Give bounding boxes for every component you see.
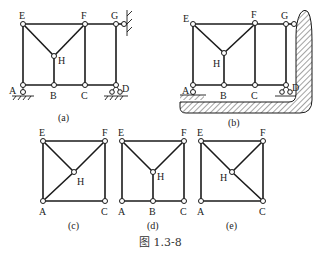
label-f: F — [181, 127, 187, 138]
label-a: A — [118, 206, 126, 217]
panel-c: E F H A C (c) — [39, 127, 108, 232]
members — [193, 24, 294, 85]
label-a: A — [197, 206, 205, 217]
label-c: C — [180, 206, 187, 217]
panel-label-e: (e) — [226, 220, 237, 232]
label-e: E — [19, 10, 25, 21]
label-d: D — [292, 82, 299, 93]
label-e: E — [118, 127, 124, 138]
nodes — [191, 21, 289, 88]
label-c: C — [81, 90, 88, 101]
pin-support-g — [292, 22, 297, 27]
label-e: E — [197, 127, 203, 138]
figure-caption: 图 1.3-8 — [139, 236, 182, 249]
panel-label-a: (a) — [58, 112, 69, 124]
figure-canvas: E F G H A B C D (a) — [0, 0, 320, 253]
label-f: F — [102, 127, 108, 138]
label-b: B — [220, 90, 227, 101]
panel-b: E F G H A B C D (b) — [180, 9, 312, 129]
label-a: A — [182, 85, 190, 96]
label-g: G — [281, 10, 288, 21]
panel-e: E F H A C (e) — [197, 127, 266, 232]
label-b: B — [149, 206, 156, 217]
label-d: D — [122, 83, 129, 94]
label-h: H — [213, 58, 220, 69]
label-h: H — [77, 176, 84, 187]
label-h: H — [157, 171, 164, 182]
pin-support-g — [122, 10, 133, 36]
label-f: F — [260, 127, 266, 138]
label-b: B — [50, 90, 57, 101]
label-f: F — [81, 10, 87, 21]
label-c: C — [101, 206, 108, 217]
members — [23, 24, 124, 85]
panel-label-d: (d) — [147, 220, 159, 232]
label-e: E — [39, 127, 45, 138]
label-f: F — [251, 9, 257, 20]
label-g: G — [111, 10, 118, 21]
panel-label-c: (c) — [68, 220, 79, 232]
label-a: A — [39, 206, 47, 217]
panel-label-b: (b) — [228, 117, 240, 129]
label-h: H — [220, 172, 227, 183]
label-h: H — [58, 55, 65, 66]
nodes — [21, 22, 119, 88]
label-e: E — [183, 13, 189, 24]
label-a: A — [9, 85, 17, 96]
panel-a: E F G H A B C D (a) — [9, 10, 132, 124]
panel-d: E F H A B C (d) — [118, 127, 187, 232]
label-c: C — [259, 206, 266, 217]
label-c: C — [251, 90, 258, 101]
